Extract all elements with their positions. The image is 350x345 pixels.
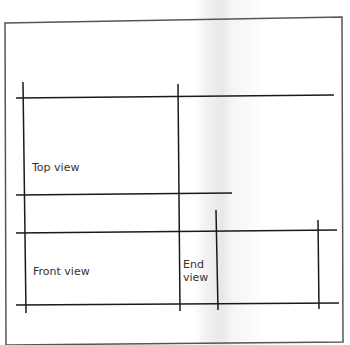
front-view-bottom-line	[16, 303, 339, 305]
middle-vertical-line	[178, 84, 180, 311]
top-view-label: Top view	[32, 161, 79, 174]
top-view-bottom-line	[16, 193, 232, 195]
end-view-label-line2: view	[183, 271, 208, 284]
end-view-left-line	[216, 210, 218, 310]
left-vertical-line	[23, 82, 26, 313]
end-view-right-line	[318, 220, 319, 309]
front-view-label: Front view	[33, 265, 90, 278]
end-view-label-line1: End	[183, 258, 208, 271]
top-view-top-line	[16, 95, 334, 98]
end-view-label: End view	[183, 258, 208, 284]
sheet-border	[5, 17, 343, 345]
front-view-top-line	[16, 230, 337, 233]
